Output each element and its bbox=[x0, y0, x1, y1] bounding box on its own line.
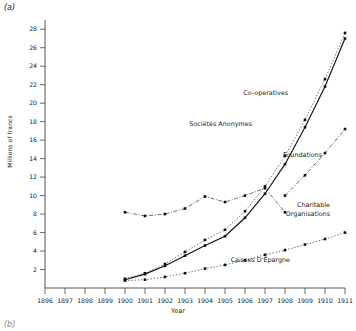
x-tick-label: 1905 bbox=[217, 297, 233, 304]
data-point bbox=[184, 272, 187, 275]
y-tick-label: 26 bbox=[29, 44, 37, 51]
data-point bbox=[144, 215, 147, 218]
series-line bbox=[125, 188, 285, 216]
x-tick-label: 1909 bbox=[297, 297, 313, 304]
y-tick-label: 2 bbox=[33, 266, 37, 273]
series-annotation: Organisations bbox=[286, 210, 331, 218]
data-point bbox=[344, 37, 347, 40]
data-point bbox=[304, 174, 307, 177]
figure-panel-a: (a) (b) Millions of francs Year 24681012… bbox=[0, 0, 356, 331]
data-point bbox=[324, 152, 327, 155]
data-point bbox=[264, 187, 267, 190]
data-point bbox=[144, 273, 147, 276]
y-tick-label: 14 bbox=[29, 155, 37, 162]
series-charitable-organisations bbox=[124, 187, 287, 217]
y-tick-label: 10 bbox=[29, 192, 37, 199]
x-tick-label: 1897 bbox=[57, 297, 73, 304]
data-point bbox=[164, 276, 167, 279]
x-tick-label: 1904 bbox=[197, 297, 213, 304]
data-point bbox=[204, 267, 207, 270]
x-tick-label: 1896 bbox=[37, 297, 53, 304]
data-point bbox=[184, 254, 187, 257]
data-point bbox=[344, 231, 347, 234]
data-point bbox=[124, 279, 127, 282]
data-point bbox=[224, 235, 227, 238]
series-annotation: Foundations bbox=[283, 151, 323, 159]
data-point bbox=[344, 128, 347, 131]
data-point bbox=[204, 195, 207, 198]
data-point bbox=[124, 211, 127, 214]
series-annotation: Sociétés Anonymes bbox=[189, 120, 252, 128]
data-point bbox=[264, 192, 267, 195]
y-tick-label: 16 bbox=[29, 136, 37, 143]
series-line bbox=[125, 38, 345, 279]
series-societes-anonymes bbox=[124, 37, 347, 281]
x-tick-label: 1910 bbox=[317, 297, 333, 304]
y-tick-label: 24 bbox=[29, 62, 37, 69]
data-point bbox=[184, 251, 187, 254]
x-tick-label: 1903 bbox=[177, 297, 193, 304]
x-tick-label: 1911 bbox=[337, 297, 353, 304]
line-chart: 246810121416182022242628 189618971898189… bbox=[0, 0, 356, 331]
y-tick-label: 8 bbox=[33, 210, 37, 217]
data-point bbox=[304, 126, 307, 129]
data-point bbox=[284, 249, 287, 252]
data-point bbox=[164, 213, 167, 216]
x-tick-label: 1906 bbox=[237, 297, 253, 304]
x-axis-ticks: 1896189718981899190019011902190319041905… bbox=[37, 288, 353, 304]
series-annotation: Charitable bbox=[297, 201, 330, 209]
data-point bbox=[324, 78, 327, 81]
data-point bbox=[344, 32, 347, 35]
x-tick-label: 1901 bbox=[137, 297, 153, 304]
series-annotations: Co-operativesSociétés AnonymesFoundation… bbox=[189, 89, 330, 264]
data-point bbox=[244, 210, 247, 213]
data-point bbox=[304, 119, 307, 122]
series-annotation: Caisses D'Épargne bbox=[231, 256, 290, 264]
y-tick-label: 12 bbox=[29, 173, 37, 180]
series-annotation: Co-operatives bbox=[243, 89, 288, 97]
data-point bbox=[164, 265, 167, 268]
data-point bbox=[224, 201, 227, 204]
y-tick-label: 20 bbox=[29, 99, 37, 106]
data-point bbox=[144, 278, 147, 281]
data-point bbox=[224, 228, 227, 231]
data-point bbox=[284, 194, 287, 197]
y-tick-label: 22 bbox=[29, 81, 37, 88]
y-tick-label: 18 bbox=[29, 118, 37, 125]
x-tick-label: 1900 bbox=[117, 297, 133, 304]
data-point bbox=[204, 244, 207, 247]
series-foundations bbox=[284, 128, 347, 197]
x-tick-label: 1902 bbox=[157, 297, 173, 304]
data-point bbox=[284, 163, 287, 166]
y-axis-ticks: 246810121416182022242628 bbox=[29, 25, 45, 272]
data-point bbox=[324, 85, 327, 88]
x-tick-label: 1908 bbox=[277, 297, 293, 304]
x-tick-label: 1899 bbox=[97, 297, 113, 304]
data-point bbox=[184, 207, 187, 210]
data-point bbox=[244, 216, 247, 219]
data-point bbox=[324, 238, 327, 241]
data-point bbox=[204, 239, 207, 242]
data-point bbox=[224, 264, 227, 267]
x-tick-label: 1898 bbox=[77, 297, 93, 304]
data-point bbox=[244, 194, 247, 197]
series-line bbox=[285, 129, 345, 196]
y-tick-label: 6 bbox=[33, 229, 37, 236]
y-tick-label: 28 bbox=[29, 25, 37, 32]
x-tick-label: 1907 bbox=[257, 297, 273, 304]
data-point bbox=[304, 243, 307, 246]
y-tick-label: 4 bbox=[33, 247, 37, 254]
